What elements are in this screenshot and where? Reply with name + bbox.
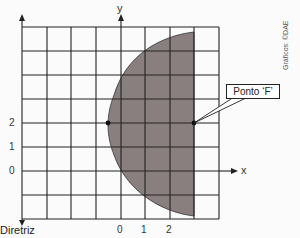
y-tick-1: 1 [9,141,15,152]
vertex-point [106,121,111,126]
directrix-label: Diretriz [0,224,35,236]
y-tick-2: 2 [9,117,15,128]
x-axis-arrow-icon [231,168,238,174]
directrix-up-arrow-icon [19,14,25,21]
y-axis-label: y [117,2,123,14]
x-axis-label: x [241,164,247,176]
image-credit: Gráficos: ©DAE [282,20,289,70]
callout-pointer [194,97,248,123]
focus-callout: Ponto ‘F’ [226,84,280,99]
x-tick-0: 0 [117,224,123,235]
x-tick-2: 2 [166,224,172,235]
x-tick-1: 1 [141,224,147,235]
y-axis-arrow-icon [118,14,124,21]
y-tick-0: 0 [9,165,15,176]
grid-graphic [0,0,300,238]
